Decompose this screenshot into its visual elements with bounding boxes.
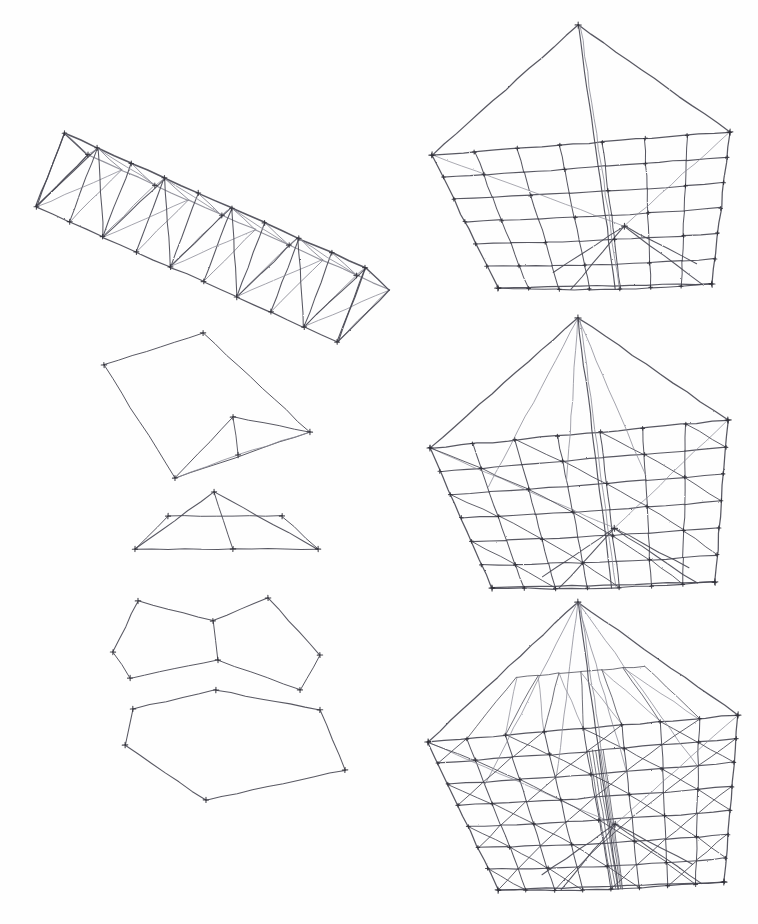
hit-outline-step-2[interactable]	[125, 487, 320, 560]
hit-tent-mesh-medium[interactable]	[415, 315, 740, 600]
hit-space-truss[interactable]	[30, 95, 350, 290]
hit-tent-mesh-fine[interactable]	[410, 595, 750, 905]
hit-outline-step-1[interactable]	[100, 330, 320, 485]
sketch-page	[0, 0, 758, 924]
hit-tent-mesh-coarse[interactable]	[420, 20, 740, 310]
hit-outline-step-4[interactable]	[115, 630, 345, 810]
